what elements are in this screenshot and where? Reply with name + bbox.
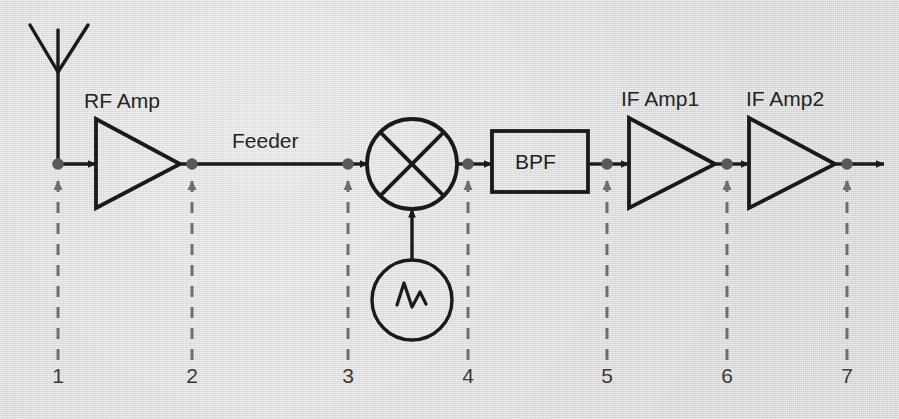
node-number-1: 1 (48, 365, 68, 386)
node-number-3: 3 (338, 365, 358, 386)
rf-amp-block[interactable] (96, 119, 180, 208)
node-number-7: 7 (837, 365, 857, 386)
node-dot-3[interactable] (342, 158, 354, 170)
node-dot-4[interactable] (462, 158, 474, 170)
if-amp2-block[interactable] (749, 118, 835, 208)
if-amp1-label: IF Amp1 (621, 88, 699, 109)
mixer-block[interactable] (367, 119, 457, 209)
node-dot-6[interactable] (721, 158, 733, 170)
rf-amp-label: RF Amp (84, 90, 160, 111)
feeder-label: Feeder (232, 130, 299, 151)
bpf-label: BPF (515, 151, 556, 172)
node-number-2: 2 (182, 365, 202, 386)
node-dot-2[interactable] (186, 158, 198, 170)
node-dot-1[interactable] (52, 158, 64, 170)
if-amp1-block[interactable] (629, 118, 715, 208)
node-dot-7[interactable] (841, 158, 853, 170)
if-amp2-label: IF Amp2 (746, 88, 824, 109)
diagram-canvas: RF Amp Feeder BPF IF Amp1 IF Amp2 1 2 3 … (0, 0, 899, 419)
local-oscillator-block[interactable] (372, 260, 452, 340)
node-dot-5[interactable] (601, 158, 613, 170)
node-number-6: 6 (717, 365, 737, 386)
block-diagram-svg (0, 0, 899, 419)
node-number-5: 5 (597, 365, 617, 386)
antenna-icon (30, 25, 88, 164)
node-number-4: 4 (458, 365, 478, 386)
